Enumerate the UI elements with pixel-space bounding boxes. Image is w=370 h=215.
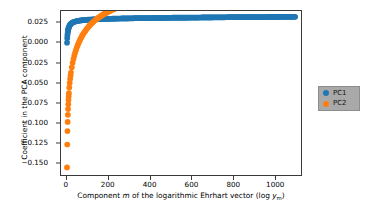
legend-label: PC1: [333, 90, 347, 97]
x-axis-ticks: 02004006008001000: [60, 176, 302, 190]
x-tick-label: 600: [185, 181, 199, 188]
x-tick-mark: [275, 176, 276, 180]
x-axis-label: Component m of the logarithmic Ehrhart v…: [38, 191, 324, 201]
x-tick-mark: [191, 176, 192, 180]
legend-marker-icon: [323, 101, 329, 107]
y-tick-label: 0.025: [27, 19, 48, 26]
legend-label: PC2: [333, 100, 347, 107]
x-tick-mark: [66, 176, 67, 180]
plot-area: [60, 10, 302, 176]
legend[interactable]: PC1PC2: [318, 86, 360, 111]
x-tick-mark: [233, 176, 234, 180]
legend-item-pc1[interactable]: PC1: [321, 89, 357, 98]
chart-figure: 0.0250.000−0.025−0.050−0.075−0.100−0.125…: [0, 0, 370, 215]
x-tick-label: 200: [101, 181, 115, 188]
y-axis-label: Coefficient in the PCA component: [20, 13, 29, 183]
x-tick-label: 800: [226, 181, 240, 188]
x-tick-label: 1000: [266, 181, 284, 188]
x-tick-label: 400: [143, 181, 157, 188]
legend-item-pc2[interactable]: PC2: [321, 100, 357, 109]
x-tick-label: 0: [64, 181, 69, 188]
series-pc2: [64, 11, 298, 170]
x-tick-mark: [150, 176, 151, 180]
legend-marker-icon: [323, 90, 329, 96]
scatter-series-canvas: [61, 11, 301, 175]
x-tick-mark: [108, 176, 109, 180]
y-tick-label: 0.000: [27, 39, 48, 46]
